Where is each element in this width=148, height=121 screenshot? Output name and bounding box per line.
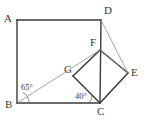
- segment-BG: [17, 50, 100, 103]
- angle-label-at-C: 40°: [75, 92, 87, 101]
- segment-DC: [100, 20, 101, 103]
- vertex-label-G: G: [64, 64, 72, 75]
- vertex-label-A: A: [4, 13, 12, 24]
- angle-label-at-B: 65°: [21, 83, 33, 92]
- vertex-label-B: B: [5, 99, 12, 110]
- segment-DE: [101, 20, 128, 73]
- segment-FG: [73, 50, 100, 76]
- segment-CE: [100, 73, 128, 103]
- segment-FE-light: [100, 50, 128, 73]
- vertex-label-E: E: [131, 67, 138, 78]
- vertex-label-D: D: [104, 5, 112, 16]
- vertex-label-C: C: [97, 106, 104, 117]
- geometry-figure: A B C D E F G 65° 40°: [0, 0, 148, 121]
- geometry-drawing-canvas: [0, 0, 148, 121]
- angle-arc-at-C: [89, 95, 92, 103]
- vertex-label-F: F: [90, 37, 96, 48]
